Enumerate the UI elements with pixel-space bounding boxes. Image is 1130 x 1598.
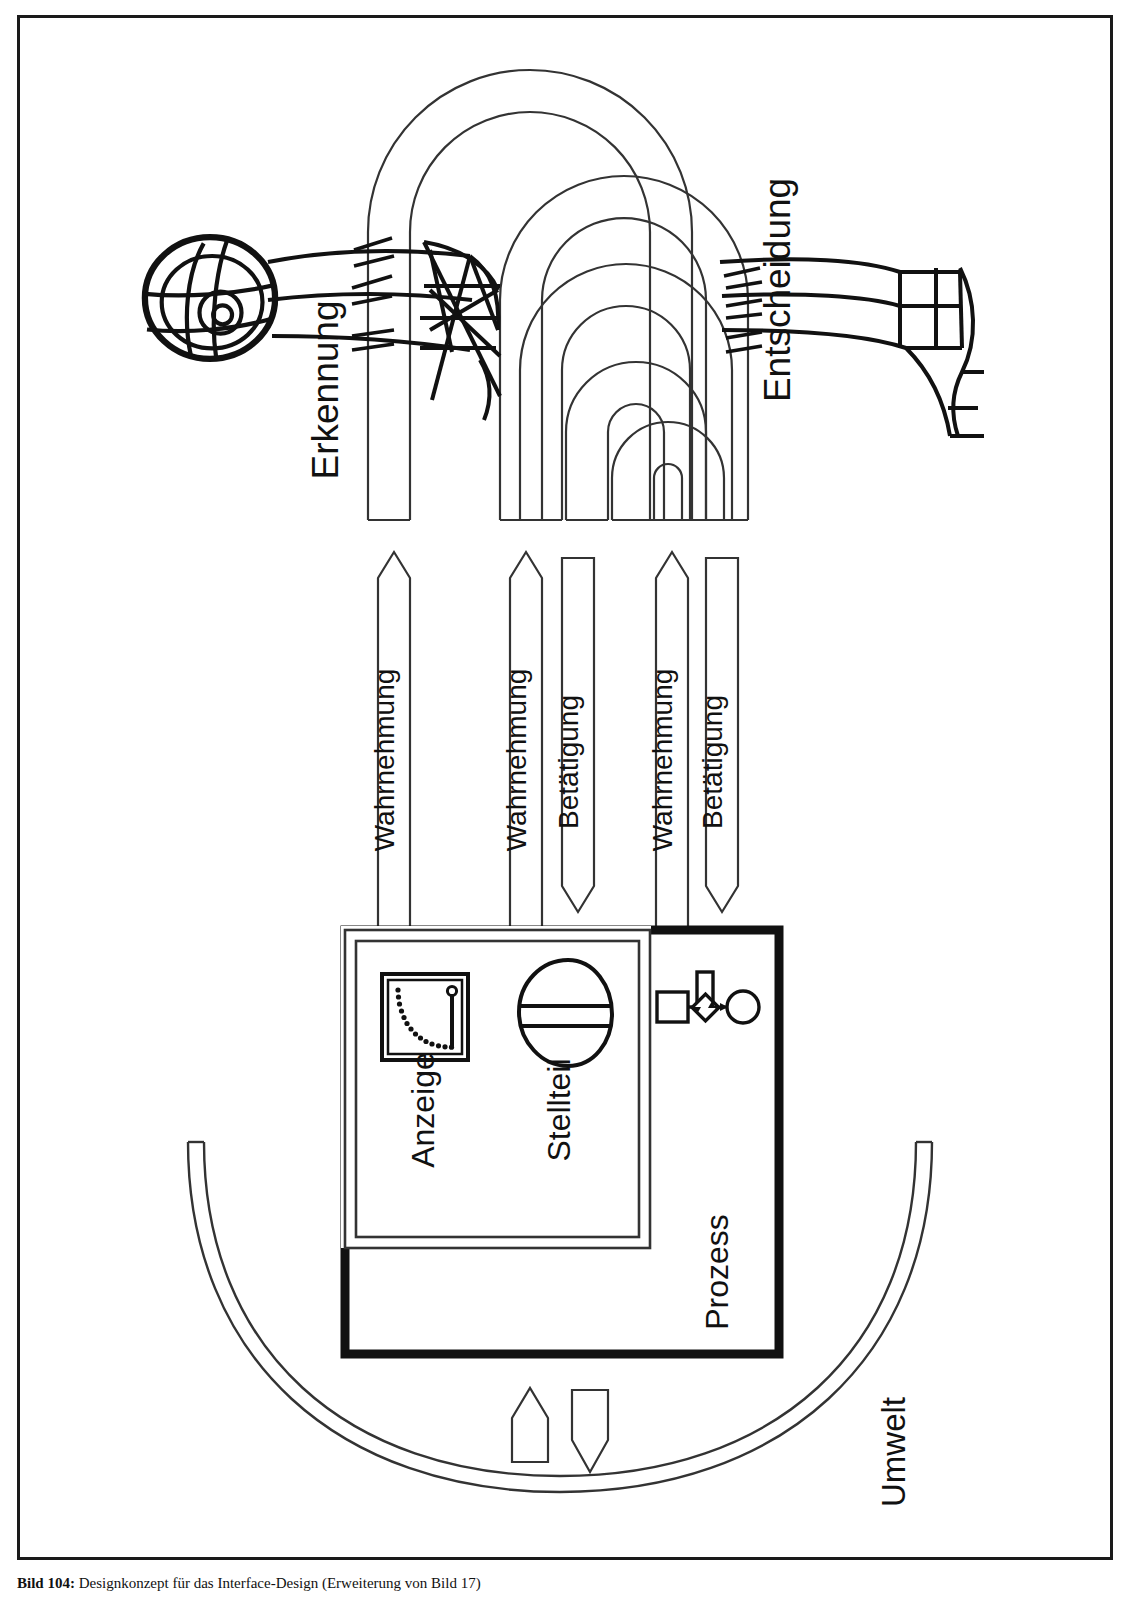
flow-arrow-betaetigung-2: Betätigung [697, 558, 738, 912]
stellteil-label: Stellteil [541, 1058, 577, 1161]
env-arrow-up [512, 1388, 548, 1462]
gauge-display-icon [382, 974, 468, 1060]
diagram-canvas: Erkennung Entscheidung Umwelt Wahrnehmun… [0, 0, 1130, 1598]
label-entscheidung: Entscheidung [757, 178, 798, 402]
flow-label: Wahrnehmung [647, 669, 678, 852]
flow-arrow-wahrnehmung-2: Wahrnehmung [501, 552, 542, 930]
caption-text: Designkonzept für das Interface-Design (… [75, 1575, 481, 1591]
flow-arrow-betaetigung-1: Betätigung [553, 558, 594, 912]
flow-arrow-wahrnehmung-3: Wahrnehmung [647, 552, 688, 930]
label-umwelt: Umwelt [875, 1397, 912, 1507]
env-arrow-down [572, 1390, 608, 1472]
control-knob-icon [519, 960, 612, 1066]
flow-label: Betätigung [697, 695, 728, 829]
prozess-label: Prozess [699, 1214, 735, 1330]
flow-label: Wahrnehmung [369, 669, 400, 852]
label-erkennung: Erkennung [305, 301, 346, 480]
anzeige-label: Anzeige [405, 1052, 441, 1168]
flow-label: Wahrnehmung [501, 669, 532, 852]
figure-page: Erkennung Entscheidung Umwelt Wahrnehmun… [0, 0, 1130, 1598]
caption-label: Bild 104: [17, 1575, 75, 1591]
figure-caption: Bild 104: Designkonzept für das Interfac… [17, 1574, 1113, 1593]
flow-label: Betätigung [553, 695, 584, 829]
flow-arrow-wahrnehmung-1: Wahrnehmung [369, 552, 410, 930]
interface-box: Anzeige Stellteil [345, 930, 650, 1248]
